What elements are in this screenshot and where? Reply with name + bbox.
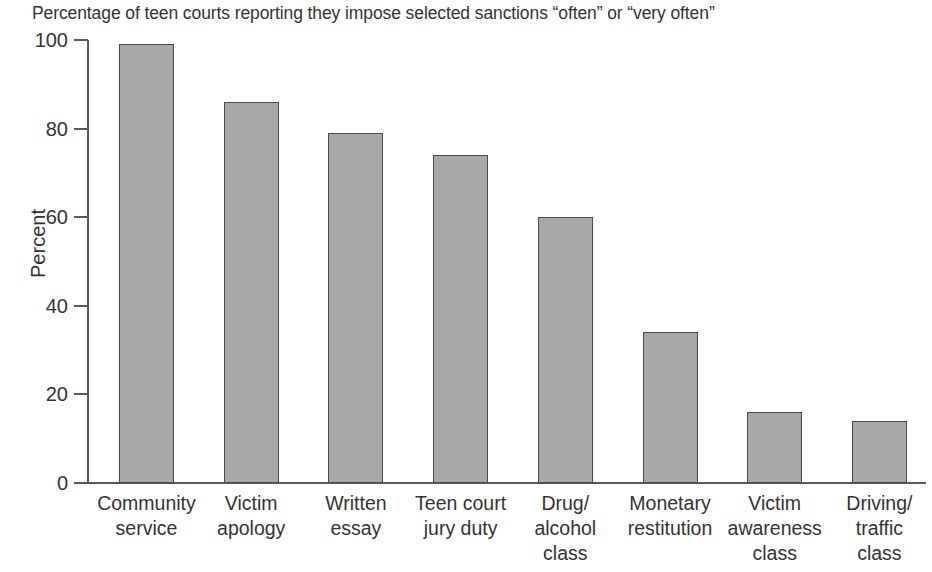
y-tick-mark xyxy=(74,482,88,484)
x-axis-label: Victim awareness class xyxy=(715,491,835,566)
y-tick-mark xyxy=(74,216,88,218)
x-axis-label: Teen court jury duty xyxy=(401,491,521,541)
x-axis-label: Written essay xyxy=(296,491,416,541)
x-axis-label: Driving/ traffic class xyxy=(819,491,932,566)
x-axis-label: Victim apology xyxy=(191,491,311,541)
x-axis-label: Community service xyxy=(87,491,207,541)
y-axis-label: Percent xyxy=(27,184,50,304)
plot-area xyxy=(88,40,926,483)
bar xyxy=(747,412,802,483)
bar xyxy=(433,155,488,483)
y-tick-mark xyxy=(74,39,88,41)
y-tick-label: 0 xyxy=(4,473,68,493)
bar-chart-figure: Percentage of teen courts reporting they… xyxy=(0,0,932,572)
y-tick-label: 100 xyxy=(4,30,68,50)
bar xyxy=(643,332,698,483)
bar xyxy=(224,102,279,483)
bar xyxy=(328,133,383,483)
bar xyxy=(852,421,907,483)
x-axis-label: Drug/ alcohol class xyxy=(505,491,625,566)
y-tick-label: 60 xyxy=(4,207,68,227)
y-tick-mark xyxy=(74,393,88,395)
y-tick-label: 80 xyxy=(4,119,68,139)
bar xyxy=(538,217,593,483)
x-axis-label: Monetary restitution xyxy=(610,491,730,541)
bar xyxy=(119,44,174,483)
y-tick-label: 20 xyxy=(4,384,68,404)
y-tick-mark xyxy=(74,305,88,307)
y-tick-mark xyxy=(74,128,88,130)
chart-title: Percentage of teen courts reporting they… xyxy=(32,2,922,24)
y-tick-label: 40 xyxy=(4,296,68,316)
